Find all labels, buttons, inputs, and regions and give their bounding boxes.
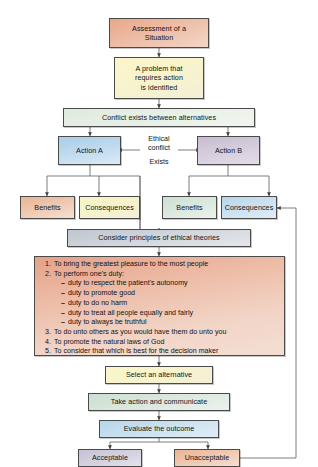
principle-subitem: duty to always be truthful xyxy=(61,318,280,328)
node-action-a-label: Action A xyxy=(74,146,105,155)
principle-item: To consider that which is best for the d… xyxy=(53,347,280,357)
principle-item: To perform one's duty:duty to respect th… xyxy=(53,270,280,328)
principle-item: To bring the greatest pleasure to the mo… xyxy=(53,260,280,270)
node-benefits-b-label: Benefits xyxy=(174,203,204,212)
principle-text: To consider that which is best for the d… xyxy=(54,347,218,355)
node-select-alternative-label: Select an alternative xyxy=(124,370,194,379)
node-consequences-a[interactable]: Consequences xyxy=(79,196,140,219)
node-action-a[interactable]: Action A xyxy=(58,136,121,165)
principle-text: To promote the natural laws of God xyxy=(54,338,164,346)
principles-list: To bring the greatest pleasure to the mo… xyxy=(41,260,280,357)
node-select-alternative[interactable]: Select an alternative xyxy=(105,366,213,384)
principle-item: To promote the natural laws of God xyxy=(53,338,280,348)
node-evaluate-outcome-label: Evaluate the outcome xyxy=(122,424,197,433)
node-consider-principles[interactable]: Consider principles of ethical theories xyxy=(67,229,251,247)
node-action-b-label: Action B xyxy=(213,146,244,155)
principle-subitem: duty to do no harm xyxy=(61,299,280,309)
node-benefits-a[interactable]: Benefits xyxy=(20,196,75,219)
edge-label-ethical-conflict: Ethical conflict xyxy=(129,135,189,153)
node-unacceptable-label: Unacceptable xyxy=(183,453,232,462)
node-action-b[interactable]: Action B xyxy=(197,136,260,165)
node-consequences-b[interactable]: Consequences xyxy=(221,196,277,219)
principle-subitem: duty to treat all people equally and fai… xyxy=(61,309,280,319)
principle-sublist: duty to respect the patient's autonomydu… xyxy=(54,279,280,328)
node-consequences-b-label: Consequences xyxy=(223,203,276,212)
node-consider-principles-label: Consider principles of ethical theories xyxy=(96,233,221,242)
principle-text: To bring the greatest pleasure to the mo… xyxy=(54,260,208,268)
node-acceptable[interactable]: Acceptable xyxy=(78,449,142,467)
principle-subitem: duty to respect the patient's autonomy xyxy=(61,279,280,289)
node-unacceptable[interactable]: Unacceptable xyxy=(174,449,240,467)
node-benefits-a-label: Benefits xyxy=(32,203,62,212)
principle-item: To do unto others as you would have them… xyxy=(53,328,280,338)
flowchart-canvas: Assessment of a Situation A problem that… xyxy=(0,0,318,467)
node-problem[interactable]: A problem that requires action is identi… xyxy=(114,57,204,99)
node-acceptable-label: Acceptable xyxy=(90,453,130,462)
principle-text: To do unto others as you would have them… xyxy=(54,328,226,336)
node-benefits-b[interactable]: Benefits xyxy=(162,196,217,219)
node-conflict[interactable]: Conflict exists between alternatives xyxy=(63,108,255,127)
node-take-action-label: Take action and communicate xyxy=(109,397,209,406)
principle-text: To perform one's duty: xyxy=(54,270,124,278)
edge-label-exists: Exists xyxy=(129,158,189,167)
node-problem-label: A problem that requires action is identi… xyxy=(133,64,185,92)
node-principles-list[interactable]: To bring the greatest pleasure to the mo… xyxy=(34,256,285,356)
principle-subitem: duty to promote good xyxy=(61,289,280,299)
node-assessment[interactable]: Assessment of a Situation xyxy=(109,18,209,48)
node-evaluate-outcome[interactable]: Evaluate the outcome xyxy=(99,420,219,438)
node-consequences-a-label: Consequences xyxy=(83,203,136,212)
node-take-action[interactable]: Take action and communicate xyxy=(88,393,230,411)
node-conflict-label: Conflict exists between alternatives xyxy=(100,113,218,122)
node-assessment-label: Assessment of a Situation xyxy=(130,24,188,42)
